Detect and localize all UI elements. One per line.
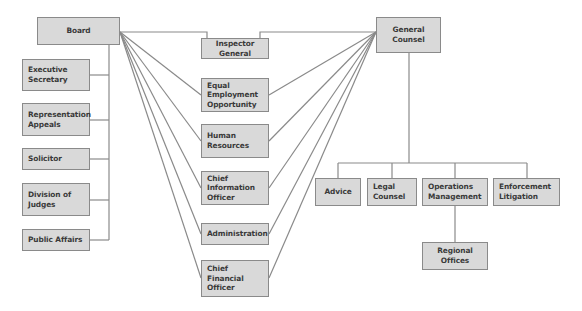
node-solicitor: Solicitor — [22, 148, 90, 170]
node-public-affairs: Public Affairs — [22, 229, 90, 251]
node-division-of-judges: Division of Judges — [22, 183, 90, 216]
node-legal-counsel: Legal Counsel — [367, 178, 417, 206]
node-enforcement-litigation: Enforcement Litigation — [493, 178, 560, 206]
node-operations-management: Operations Management — [422, 178, 488, 206]
node-chief-information-officer: Chief Information Officer — [201, 171, 269, 205]
node-chief-financial-officer: Chief Financial Officer — [201, 260, 269, 297]
node-equal-employment-opportunity: Equal Employment Opportunity — [201, 78, 269, 112]
node-human-resources: Human Resources — [201, 124, 269, 158]
node-general-counsel: General Counsel — [376, 17, 441, 53]
node-inspector-general: Inspector General — [201, 38, 269, 59]
org-chart: Board General Counsel Executive Secretar… — [0, 0, 582, 311]
node-regional-offices: Regional Offices — [422, 242, 488, 270]
node-advice: Advice — [315, 178, 361, 206]
node-representation-appeals: Representation Appeals — [22, 103, 90, 136]
node-executive-secretary: Executive Secretary — [22, 59, 90, 91]
node-administration: Administration — [201, 223, 269, 245]
node-board: Board — [37, 17, 120, 45]
